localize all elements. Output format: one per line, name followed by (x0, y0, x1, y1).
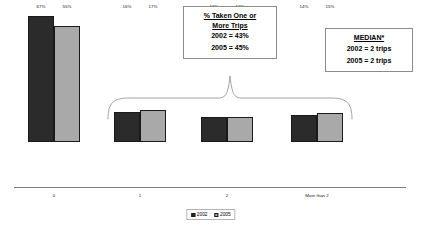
callout-title-line1: % Taken One or (190, 11, 270, 21)
callout-median: MEDIAN* 2002 = 2 trips 2005 = 2 trips (325, 28, 413, 72)
bar-value-label: 17% (149, 4, 158, 9)
legend-label: 2002 (197, 212, 208, 218)
chart-legend: 2002 2005 (186, 209, 235, 220)
bar-wrap-0-2005: 55% (54, 10, 80, 142)
callout-row-2005: 2005 = 2 trips (332, 55, 406, 67)
bar-2002-cat-2[interactable] (201, 117, 227, 142)
bar-value-label: 15% (326, 4, 335, 9)
x-axis-line (14, 187, 406, 188)
category-label-1: 1 (113, 193, 167, 199)
callout-title-line2: More Trips (190, 21, 270, 31)
category-label-3: More than 2 (290, 193, 344, 199)
callout-title-median: MEDIAN* (332, 33, 406, 43)
legend-item-2002[interactable]: 2002 (191, 212, 207, 218)
legend-label: 2005 (220, 212, 231, 218)
category-label-2: 2 (200, 193, 254, 199)
bar-value-label: 14% (300, 4, 309, 9)
legend-swatch-icon (191, 213, 195, 217)
bar-2002-cat-0[interactable] (28, 16, 54, 142)
legend-swatch-icon (215, 213, 219, 217)
category-label-0: 0 (27, 193, 81, 199)
callout-row-2002: 2002 = 43% (190, 30, 270, 42)
callout-row-2002: 2002 = 2 trips (332, 43, 406, 55)
bar-value-label: 67% (37, 4, 46, 9)
callout-percent-taken-trips: % Taken One or More Trips 2002 = 43% 200… (183, 6, 277, 59)
callout-row-2005: 2005 = 45% (190, 42, 270, 54)
bar-2005-cat-0[interactable] (54, 26, 80, 142)
bar-2005-cat-2[interactable] (227, 117, 253, 142)
bar-chart: 67% 55% 0 16% 17% 1 13% (0, 0, 422, 237)
legend-item-2005[interactable]: 2005 (215, 212, 231, 218)
bar-value-label: 55% (63, 4, 72, 9)
brace-path (108, 76, 352, 119)
bar-value-label: 16% (123, 4, 132, 9)
bar-wrap-0-2002: 67% (28, 10, 54, 142)
bar-group-0: 67% 55% (27, 10, 81, 142)
brace-annotation (106, 74, 354, 120)
